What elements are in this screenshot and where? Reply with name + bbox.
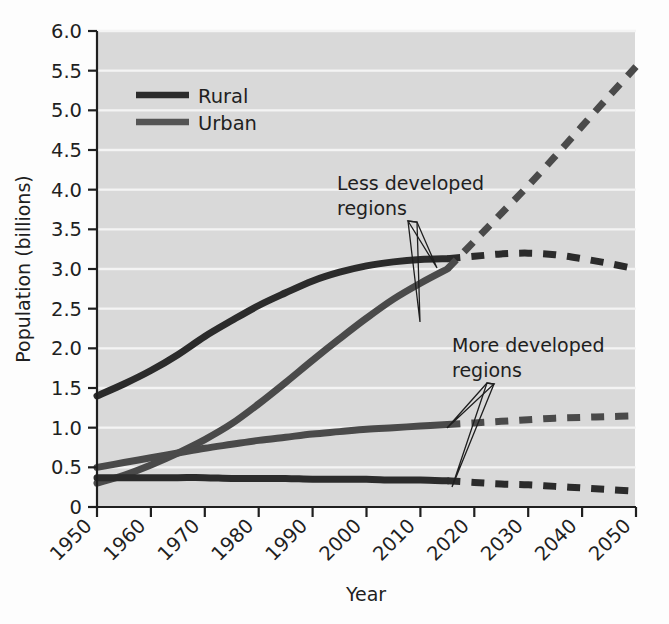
- y-axis-tick-label: 4.5: [51, 139, 82, 162]
- y-axis-tick-label: 4.0: [51, 179, 82, 202]
- x-axis-tick-label: 1990: [261, 514, 312, 565]
- annotation-more-developed-line2: regions: [452, 359, 522, 381]
- x-axis-tick-labels: 1950196019701980199020002010202020302040…: [45, 514, 635, 565]
- x-axis-tick-label: 1950: [45, 514, 96, 565]
- chart-canvas: 00.51.01.52.02.53.03.54.04.55.05.56.0 19…: [0, 0, 669, 624]
- annotation-less-developed-line2: regions: [337, 197, 407, 219]
- y-axis-tick-label: 1.0: [51, 417, 82, 440]
- y-axis-tick-label: 5.0: [51, 99, 82, 122]
- x-axis-tick-label: 2020: [422, 514, 473, 565]
- y-axis-tick-label: 0.5: [51, 456, 82, 479]
- x-axis-title: Year: [345, 583, 386, 605]
- population-line-chart-figure: 00.51.01.52.02.53.03.54.04.55.05.56.0 19…: [0, 0, 669, 624]
- x-axis-tick-label: 2040: [530, 514, 581, 565]
- y-axis-ticks: [88, 31, 97, 507]
- y-axis-tick-label: 3.0: [51, 258, 82, 281]
- x-axis-tick-label: 1970: [153, 514, 204, 565]
- x-axis-tick-label: 2050: [584, 514, 635, 565]
- y-axis-tick-label: 2.0: [51, 337, 82, 360]
- y-axis-tick-label: 3.5: [51, 218, 82, 241]
- series-line-historical: [97, 478, 447, 481]
- x-axis-ticks: [97, 507, 636, 517]
- x-axis-tick-label: 1980: [207, 514, 258, 565]
- annotation-less-developed-line1: Less developed: [337, 172, 484, 194]
- x-axis-tick-label: 2010: [369, 514, 420, 565]
- y-axis-tick-label: 2.5: [51, 298, 82, 321]
- y-axis-tick-labels: 00.51.01.52.02.53.03.54.04.55.05.56.0: [51, 20, 82, 519]
- legend-label-rural: Rural: [198, 85, 248, 108]
- y-axis-tick-label: 6.0: [51, 20, 82, 43]
- y-axis-tick-label: 5.5: [51, 60, 82, 83]
- annotation-more-developed-line1: More developed: [452, 334, 605, 356]
- x-axis-tick-label: 2030: [476, 514, 527, 565]
- x-axis-tick-label: 2000: [315, 514, 366, 565]
- x-axis-tick-label: 1960: [99, 514, 150, 565]
- y-axis-title: Population (billions): [12, 175, 34, 362]
- legend-label-urban: Urban: [198, 112, 257, 135]
- y-axis-tick-label: 1.5: [51, 377, 82, 400]
